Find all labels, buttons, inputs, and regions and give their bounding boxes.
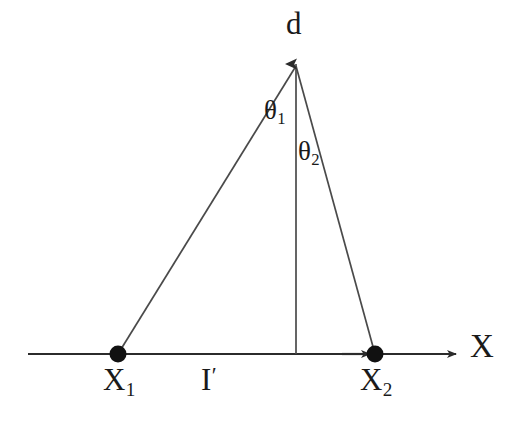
diagram-canvas: d θ1 θ2 X1 I′ X2 X [0, 0, 511, 428]
apex-label-d: d [286, 8, 302, 39]
theta2-symbol: θ [298, 136, 311, 166]
triangle-diagram-graphic [0, 0, 511, 428]
angle-label-theta1: θ1 [264, 97, 285, 124]
point-label-x1: X1 [103, 364, 135, 395]
theta2-subscript: 2 [311, 150, 319, 169]
theta1-subscript: 1 [277, 109, 285, 128]
theta1-symbol: θ [264, 95, 277, 125]
point-marker-x1 [110, 346, 127, 363]
baseline-symbol: I [201, 362, 211, 397]
prime-mark: ′ [212, 363, 217, 388]
x1-symbol: X [103, 362, 125, 397]
angle-label-theta2: θ2 [298, 138, 319, 165]
point-label-x2: X2 [360, 364, 392, 395]
triangle-right-side [296, 66, 375, 354]
baseline-label-i-prime: I′ [201, 364, 216, 395]
x2-subscript: 2 [383, 379, 393, 400]
x-axis-label: X [470, 330, 494, 363]
x1-subscript: 1 [126, 379, 136, 400]
point-marker-x2 [367, 346, 384, 363]
x2-symbol: X [360, 362, 382, 397]
